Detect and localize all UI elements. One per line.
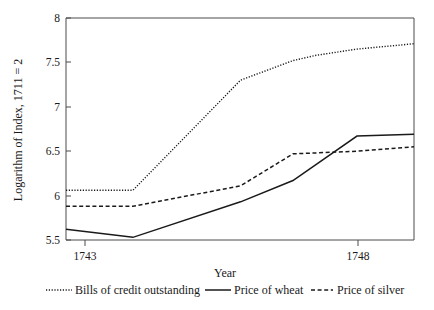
y-tick-label-6: 6: [54, 190, 60, 202]
chart-figure: Logarithm of Index, 1711 = 2 5.5 6 6.5 7…: [0, 0, 434, 310]
x-axis-title: Year: [214, 266, 236, 280]
y-tick-label-7-5: 7.5: [46, 56, 61, 68]
y-tick-label-8: 8: [54, 12, 60, 24]
y-tick-label-7: 7: [54, 101, 60, 113]
legend-label-price-of-wheat: Price of wheat: [234, 283, 304, 297]
series-group: [66, 44, 414, 238]
legend-item-bills-of-credit-outstanding[interactable]: Bills of credit outstanding: [46, 283, 200, 297]
legend-label-bills-of-credit-outstanding: Bills of credit outstanding: [75, 283, 200, 297]
y-tick-label-5-5: 5.5: [46, 234, 61, 246]
plot-frame: [66, 18, 414, 240]
legend-item-price-of-wheat[interactable]: Price of wheat: [205, 283, 304, 297]
y-tick-label-6-5: 6.5: [46, 145, 61, 157]
legend-label-price-of-silver: Price of silver: [337, 283, 404, 297]
series-line-bills-of-credit-outstanding: [66, 44, 414, 191]
y-axis-title: Logarithm of Index, 1711 = 2: [11, 59, 25, 201]
x-tick-label-1748: 1748: [347, 250, 370, 262]
legend: Bills of credit outstanding Price of whe…: [46, 283, 404, 297]
legend-item-price-of-silver[interactable]: Price of silver: [311, 283, 404, 297]
x-tick-label-1743: 1743: [74, 250, 97, 262]
series-line-price-of-silver: [66, 147, 414, 207]
series-line-price-of-wheat: [66, 134, 414, 237]
